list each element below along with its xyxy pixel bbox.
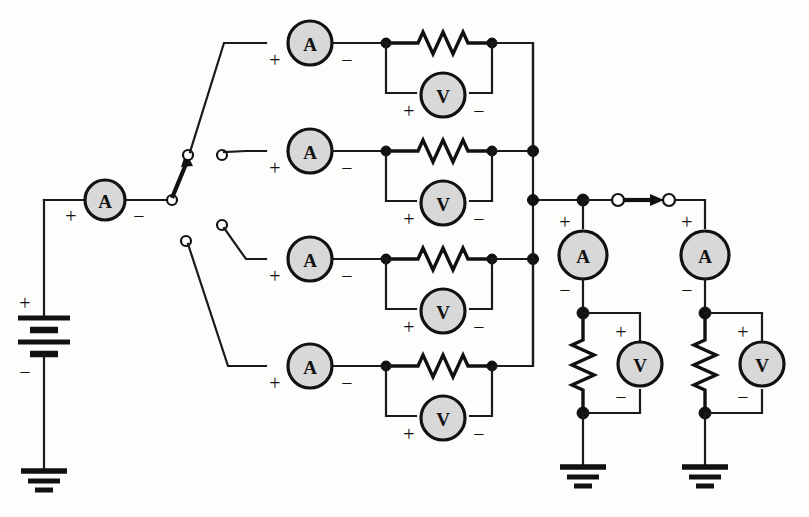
branch-2-voltmeter-right-tap: [470, 259, 492, 309]
branch-1-voltmeter-label: V: [436, 194, 450, 215]
branch-1-voltmeter-minus: −: [473, 208, 484, 230]
load-1-voltmeter-bottom-tap: [705, 390, 762, 413]
switch-pivot-lower[interactable]: [181, 236, 191, 246]
load-0-resistor: [572, 318, 594, 412]
branch-1-resistor: [391, 140, 488, 162]
branch-1-feed-wire: [224, 151, 266, 152]
load-0-voltmeter-minus: −: [615, 386, 626, 408]
load-0-voltmeter-top-tap: [583, 313, 640, 340]
branch-3-bus-wire: [492, 259, 533, 366]
bus-tap-node: [528, 195, 539, 206]
measurement-branch-0: A + − V + −: [190, 21, 533, 152]
branch-2-voltmeter-minus: −: [473, 316, 484, 338]
load-1-ammeter-label: A: [698, 246, 712, 267]
circuit-diagram: + − A + −: [0, 0, 809, 517]
load-0-voltmeter-bottom-tap: [583, 390, 640, 413]
branch-1-voltmeter-right-tap: [470, 151, 492, 201]
main-ammeter-label: A: [98, 191, 112, 212]
branch-3-voltmeter-minus: −: [473, 423, 484, 445]
branch-3-resistor: [391, 355, 488, 377]
load-0-ammeter-label: A: [576, 246, 590, 267]
ground-icon-load-1: [682, 467, 728, 486]
branch-1-voltmeter-plus: +: [403, 208, 414, 230]
measurement-branch-1: A + − V + −: [224, 129, 539, 230]
main-ammeter: A + −: [44, 180, 172, 227]
branch-1-voltmeter-left-tap: [386, 151, 416, 201]
inline-switch-contact-right[interactable]: [663, 194, 675, 206]
branch-3-feed-wire: [188, 244, 266, 366]
branch-0-ammeter-minus: −: [341, 49, 352, 71]
load-0-ammeter-minus: −: [559, 279, 570, 301]
battery-source: + −: [18, 200, 70, 490]
branch-2-ammeter-label: A: [303, 250, 317, 271]
branch-3-ammeter-plus: +: [269, 372, 280, 394]
load-1-voltmeter-top-tap: [705, 313, 762, 340]
branch-0-voltmeter-left-tap: [386, 43, 416, 93]
load-1-ammeter-minus: −: [681, 279, 692, 301]
branch-0-voltmeter-plus: +: [403, 100, 414, 122]
branch-0-feed-wire: [190, 43, 266, 152]
load-branch-1: A + − V + −: [681, 211, 784, 486]
measurement-branch-2: A + − V + −: [224, 228, 539, 338]
battery-minus-label: −: [19, 361, 30, 383]
switch-contact-branch-0[interactable]: [183, 150, 193, 160]
load-0-ammeter-plus: +: [559, 211, 570, 233]
branch-0-bus-wire: [492, 43, 533, 151]
branch-3-voltmeter-right-tap: [470, 366, 492, 416]
branch-0-ammeter-plus: +: [269, 49, 280, 71]
branch-2-feed-wire: [224, 228, 266, 259]
branch-1-ammeter-label: A: [303, 142, 317, 163]
branch-0-ammeter-label: A: [303, 34, 317, 55]
rotary-selector-switch[interactable]: [167, 150, 227, 246]
branch-2-voltmeter-label: V: [436, 302, 450, 323]
branch-1-ammeter-minus: −: [341, 157, 352, 179]
branch-3-voltmeter-label: V: [436, 409, 450, 430]
load-1-voltmeter-minus: −: [737, 386, 748, 408]
branch-0-resistor: [391, 32, 488, 54]
load-1-ammeter-plus: +: [681, 211, 692, 233]
branch-0-voltmeter-minus: −: [473, 100, 484, 122]
load-1-voltmeter-plus: +: [737, 321, 748, 343]
load-1-resistor: [694, 318, 716, 412]
ground-icon-load-0: [560, 467, 606, 486]
collection-bus: [528, 43, 584, 366]
branch-2-ammeter-minus: −: [341, 265, 352, 287]
branch-0-voltmeter-label: V: [436, 86, 450, 107]
switch-arm[interactable]: [172, 164, 186, 198]
load-0-voltmeter-label: V: [633, 355, 647, 376]
branch-2-resistor: [391, 248, 488, 270]
branch-2-voltmeter-plus: +: [403, 316, 414, 338]
measurement-branch-3: A + − V + −: [188, 244, 533, 445]
inline-switch-contact-left[interactable]: [612, 194, 624, 206]
load-branch-0: A + − V + −: [559, 194, 662, 486]
battery-plus-label: +: [19, 292, 30, 314]
branch-2-ammeter-plus: +: [269, 265, 280, 287]
branch-1-ammeter-plus: +: [269, 157, 280, 179]
load-1-voltmeter-label: V: [755, 355, 769, 376]
load-0-voltmeter-plus: +: [615, 321, 626, 343]
branch-3-voltmeter-left-tap: [386, 366, 416, 416]
branch-2-voltmeter-left-tap: [386, 259, 416, 309]
branch-3-voltmeter-plus: +: [403, 423, 414, 445]
main-ammeter-plus-label: +: [65, 205, 76, 227]
ground-icon-battery: [21, 471, 67, 490]
branch-0-voltmeter-right-tap: [470, 43, 492, 93]
main-ammeter-minus-label: −: [133, 205, 144, 227]
branch-3-ammeter-label: A: [303, 357, 317, 378]
branch-3-ammeter-minus: −: [341, 372, 352, 394]
